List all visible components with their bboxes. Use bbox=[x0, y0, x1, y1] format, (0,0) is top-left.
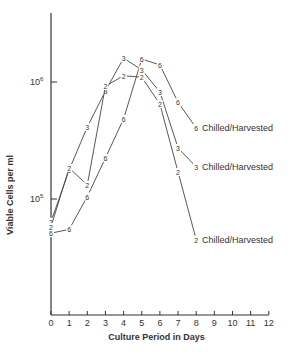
series-2-marker: 2 bbox=[67, 165, 71, 172]
series-2-marker: 2 bbox=[158, 101, 162, 108]
x-tick-label: 2 bbox=[85, 318, 90, 328]
x-tick-label: 0 bbox=[48, 318, 53, 328]
series-2-marker: 2 bbox=[85, 182, 89, 189]
x-axis-label: Culture Period in Days bbox=[0, 332, 303, 342]
series-3-marker: 3 bbox=[194, 164, 198, 171]
series-2-marker: 2 bbox=[122, 73, 126, 80]
series-3-marker: 3 bbox=[85, 124, 89, 131]
series-3-line bbox=[51, 58, 196, 222]
x-tick-label: 10 bbox=[227, 318, 237, 328]
series-6-marker: 6 bbox=[122, 116, 126, 123]
series-2-line bbox=[51, 76, 196, 240]
series-6-marker: 6 bbox=[176, 99, 180, 106]
x-tick-label: 1 bbox=[67, 318, 72, 328]
series-2-end-label: Chilled/Harvested bbox=[202, 235, 273, 245]
x-tick-label: 7 bbox=[176, 318, 181, 328]
series-6-marker: 6 bbox=[49, 230, 53, 237]
series-2-marker: 2 bbox=[176, 169, 180, 176]
series-6-end-label: Chilled/Harvested bbox=[202, 123, 273, 133]
y-tick-label-1e6: 106 bbox=[30, 76, 43, 87]
series-6-marker: 6 bbox=[85, 194, 89, 201]
x-tick-label: 4 bbox=[121, 318, 126, 328]
series-6-marker: 6 bbox=[194, 125, 198, 132]
series-3-marker: 3 bbox=[158, 89, 162, 96]
y-axis-label: Viable Cells per ml bbox=[5, 155, 15, 235]
series-6-marker: 6 bbox=[140, 56, 144, 63]
series-2-marker: 2 bbox=[103, 83, 107, 90]
x-tick-label: 11 bbox=[246, 318, 255, 328]
chart-plot-area: 666666666333333333222222222 bbox=[0, 0, 303, 359]
series-3-marker: 3 bbox=[140, 67, 144, 74]
series-6-line bbox=[51, 59, 196, 233]
x-tick-label: 5 bbox=[139, 318, 144, 328]
series-6-marker: 6 bbox=[158, 62, 162, 69]
x-tick-label: 9 bbox=[212, 318, 217, 328]
series-3-marker: 3 bbox=[176, 145, 180, 152]
x-tick-label: 12 bbox=[264, 318, 274, 328]
y-tick-label-1e5: 105 bbox=[30, 193, 43, 204]
x-tick-label: 8 bbox=[194, 318, 199, 328]
series-2-marker: 2 bbox=[140, 74, 144, 81]
series-6-marker: 6 bbox=[67, 226, 71, 233]
x-tick-label: 6 bbox=[157, 318, 162, 328]
series-3-end-label: Chilled/Harvested bbox=[202, 162, 273, 172]
series-6-marker: 6 bbox=[103, 155, 107, 162]
series-2-marker: 2 bbox=[194, 237, 198, 244]
x-tick-label: 3 bbox=[103, 318, 108, 328]
series-2-marker: 2 bbox=[49, 224, 53, 231]
series-3-marker: 3 bbox=[122, 55, 126, 62]
